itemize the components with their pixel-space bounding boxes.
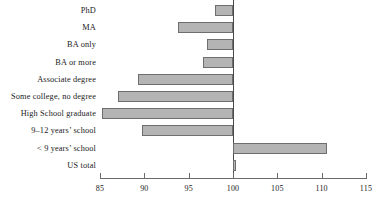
x-axis-tick [233,173,234,178]
bar [207,39,233,50]
bar [178,22,233,33]
x-axis-tick-label: 105 [271,184,284,193]
plot-area: 859095100105110115 [0,0,374,206]
x-axis-tick-label: 100 [227,184,240,193]
x-axis-tick-label: 90 [140,184,148,193]
x-axis-tick [189,173,190,178]
bar [233,160,236,171]
x-axis-tick-label: 95 [184,184,192,193]
bar [138,74,233,85]
bar [102,108,233,119]
bar [233,143,327,154]
x-axis-line [100,178,367,179]
bar [203,57,233,68]
x-axis-tick [144,173,145,178]
x-axis-tick [366,173,367,178]
bar [215,5,233,16]
bar-chart: PhDMABA onlyBA or moreAssociate degreeSo… [0,0,374,206]
x-axis-tick [100,173,101,178]
x-axis-tick [277,173,278,178]
bar [142,125,233,136]
x-axis-tick [322,173,323,178]
x-axis-tick-label: 115 [360,184,372,193]
x-axis-tick-label: 85 [96,184,104,193]
bar [118,91,233,102]
x-axis-tick-label: 110 [316,184,328,193]
